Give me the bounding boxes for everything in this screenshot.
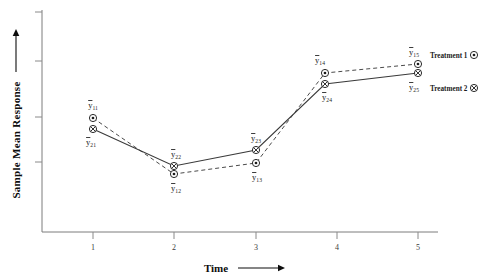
y-axis-title-group: Sample Mean Response [10, 29, 22, 199]
point-label-y14: y14 [315, 55, 325, 66]
data-point-marker [321, 80, 328, 87]
point-label-y25: y25 [409, 82, 419, 93]
x-axis-tick-labels: 1 2 3 4 5 [91, 243, 420, 252]
legend-entry-treatment-1[interactable]: Treatment 1 [430, 51, 478, 60]
point-label-y23: y23 [251, 133, 261, 144]
x-tick-label: 1 [91, 243, 95, 252]
data-point-marker [170, 162, 177, 169]
arrow-right-icon [238, 265, 285, 272]
x-axis-title-group: Time [204, 262, 285, 274]
treatment-1-line [93, 64, 418, 174]
data-point-marker [89, 125, 96, 132]
line-chart-canvas: 1 2 3 4 5 [0, 0, 484, 280]
data-point-marker [89, 114, 96, 121]
chart-figure: 1 2 3 4 5 [0, 0, 484, 280]
data-point-marker [252, 159, 259, 166]
data-point-marker [170, 170, 177, 177]
legend: Treatment 1 Treatment 2 [430, 51, 478, 93]
x-axis-title: Time [204, 262, 228, 274]
axis-lines [42, 10, 438, 232]
arrow-up-icon [13, 29, 20, 72]
circle-cross-marker-icon [470, 84, 477, 91]
point-label-y21: y21 [86, 137, 96, 148]
data-point-marker [414, 69, 421, 76]
circle-dot-marker-icon [470, 51, 477, 58]
series-treatment-2 [89, 69, 421, 169]
data-point-marker [321, 69, 328, 76]
data-point-marker [252, 146, 259, 153]
point-label-y11: y11 [88, 100, 98, 111]
point-label-y24: y24 [322, 92, 332, 103]
x-tick-label: 3 [254, 243, 258, 252]
y-axis-title: Sample Mean Response [10, 81, 22, 198]
x-tick-label: 5 [416, 243, 420, 252]
y-axis-ticks [35, 12, 42, 162]
legend-entry-treatment-2[interactable]: Treatment 2 [430, 84, 478, 93]
x-tick-label: 4 [335, 243, 339, 252]
treatment-2-markers [89, 69, 421, 169]
point-label-y12: y12 [171, 183, 181, 194]
legend-label-treatment-2: Treatment 2 [430, 85, 468, 93]
point-label-y13: y13 [252, 172, 262, 183]
x-tick-label: 2 [172, 243, 176, 252]
x-axis-ticks [93, 232, 418, 239]
legend-label-treatment-1: Treatment 1 [430, 52, 468, 60]
point-label-y22: y22 [171, 149, 181, 160]
data-point-marker [414, 60, 421, 67]
point-label-y15: y15 [409, 47, 419, 58]
